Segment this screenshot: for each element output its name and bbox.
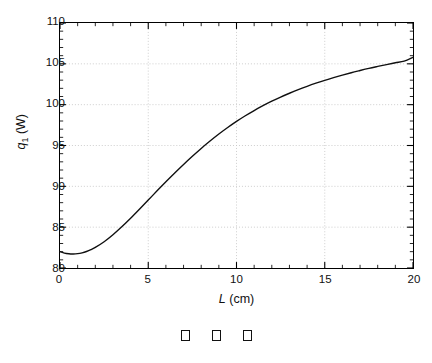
data-curve [60,23,413,268]
missing-glyph-box-icon [243,330,252,341]
y-axis-unit: (W) [14,114,28,134]
y-tick-label: 80 [52,263,65,275]
x-tick-label: 10 [230,274,243,286]
y-tick-label: 100 [46,99,65,111]
y-tick-label: 110 [47,16,65,28]
figure-container: 05101520 80859095100105110 L (cm) q1 (W) [0,0,432,363]
caption-glyph-row [0,330,432,341]
x-axis-symbol: L [219,292,226,306]
y-axis-symbol: q [14,143,28,150]
y-tick-label: 90 [52,181,65,193]
missing-glyph-box-icon [181,330,190,341]
x-axis-unit: (cm) [229,292,254,306]
x-tick-label: 0 [56,274,62,286]
series-q1-line [60,57,413,254]
x-tick-label: 5 [145,274,151,286]
x-axis-title: L (cm) [59,292,414,306]
y-tick-label: 85 [52,222,65,234]
y-tick-label: 105 [46,57,65,69]
y-axis-title: q1 (W) [14,72,30,192]
x-tick-label: 15 [319,274,332,286]
missing-glyph-box-icon [212,330,221,341]
y-tick-label: 95 [52,140,65,152]
x-tick-label: 20 [408,274,421,286]
y-axis-subscript: 1 [20,138,30,143]
plot-area [59,22,414,269]
